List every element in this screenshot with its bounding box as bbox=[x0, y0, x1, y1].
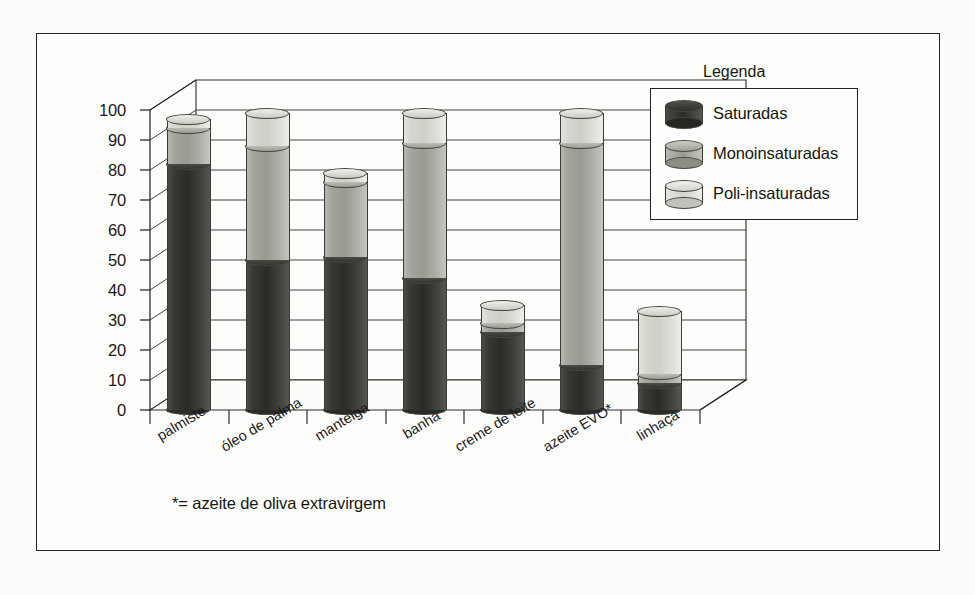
bar--leo-de-palma[interactable] bbox=[246, 113, 290, 410]
legend-swatch-monoinsaturadas-icon bbox=[665, 140, 703, 166]
footnote: *= azeite de oliva extravirgem bbox=[172, 494, 386, 513]
legend-item-poli-insaturadas[interactable]: Poli-insaturadas bbox=[665, 177, 830, 209]
bar-segment-cap bbox=[323, 168, 367, 179]
y-tick-label: 30 bbox=[82, 312, 126, 328]
legend-item-monoinsaturadas[interactable]: Monoinsaturadas bbox=[665, 137, 838, 169]
y-tick-label: 10 bbox=[82, 372, 126, 388]
bar-segment-monoinsaturadas[interactable] bbox=[324, 182, 368, 257]
legend-box: Saturadas Monoinsaturadas Poli-insaturad… bbox=[650, 88, 858, 220]
bar-segment-saturadas[interactable] bbox=[167, 164, 211, 410]
bar-segment-monoinsaturadas[interactable] bbox=[403, 143, 447, 278]
bar-palmiste[interactable] bbox=[167, 119, 211, 410]
legend-label: Monoinsaturadas bbox=[713, 144, 838, 163]
legend-title: Legenda bbox=[703, 63, 765, 81]
legend-label: Saturadas bbox=[713, 104, 787, 123]
y-tick-label: 20 bbox=[82, 342, 126, 358]
bar-segment-saturadas[interactable] bbox=[246, 260, 290, 410]
y-tick-label: 70 bbox=[82, 192, 126, 208]
bar-segment-cap bbox=[245, 108, 289, 119]
bar-segment-saturadas[interactable] bbox=[481, 332, 525, 410]
bar-segment-saturadas[interactable] bbox=[560, 365, 604, 410]
bar-segment-saturadas[interactable] bbox=[403, 278, 447, 410]
bar-segment-cap bbox=[480, 300, 524, 311]
bar-banha[interactable] bbox=[403, 113, 447, 410]
y-tick-label: 90 bbox=[82, 132, 126, 148]
bar-segment-saturadas[interactable] bbox=[324, 257, 368, 410]
bar-segment-cap bbox=[402, 108, 446, 119]
bar-segment-monoinsaturadas[interactable] bbox=[560, 143, 604, 365]
y-tick-label: 80 bbox=[82, 162, 126, 178]
y-tick-label: 0 bbox=[82, 402, 126, 418]
bar-segment-cap bbox=[559, 108, 603, 119]
bar-manteiga[interactable] bbox=[324, 173, 368, 410]
y-tick-label: 100 bbox=[82, 102, 126, 118]
bar-segment-poli-insaturadas[interactable] bbox=[638, 311, 682, 374]
bar-creme-de-leite[interactable] bbox=[481, 305, 525, 410]
legend-swatch-saturadas-icon bbox=[665, 100, 703, 126]
bar-azeite-evo-[interactable] bbox=[560, 113, 604, 410]
bar-linha-a[interactable] bbox=[638, 311, 682, 410]
legend-label: Poli-insaturadas bbox=[713, 184, 830, 203]
legend-swatch-poli-insaturadas-icon bbox=[665, 180, 703, 206]
y-tick-label: 40 bbox=[82, 282, 126, 298]
y-tick-label: 60 bbox=[82, 222, 126, 238]
legend-item-saturadas[interactable]: Saturadas bbox=[665, 97, 787, 129]
bar-segment-cap bbox=[166, 114, 210, 125]
bar-segment-cap bbox=[637, 306, 681, 317]
y-tick-label: 50 bbox=[82, 252, 126, 268]
bar-segment-monoinsaturadas[interactable] bbox=[246, 146, 290, 260]
